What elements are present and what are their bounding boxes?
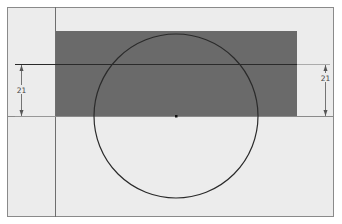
filled-rectangle[interactable] [55, 31, 297, 116]
right-dimension-label: 21 [321, 74, 331, 83]
cad-sketch-canvas[interactable]: 21 21 [0, 0, 342, 224]
sketch-svg: 21 21 [0, 0, 342, 224]
center-point[interactable] [175, 115, 178, 118]
left-dimension-label: 21 [17, 86, 27, 95]
